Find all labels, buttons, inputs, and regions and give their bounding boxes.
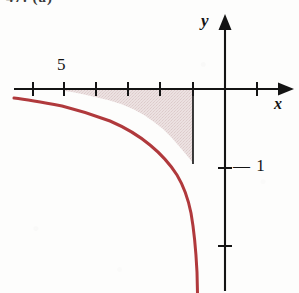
y-axis-arrow-icon	[219, 14, 232, 30]
x-axis-arrow-icon	[278, 83, 294, 96]
y-axis-label: y	[201, 11, 209, 31]
shaded-area-region	[64, 89, 193, 163]
plot-canvas	[0, 0, 299, 293]
x-axis-label: x	[274, 95, 282, 113]
math-figure: 47. (a)	[0, 0, 299, 293]
x-tick-label-5: 5	[57, 55, 66, 75]
y-tick-label-negative-one: — 1	[233, 156, 266, 176]
